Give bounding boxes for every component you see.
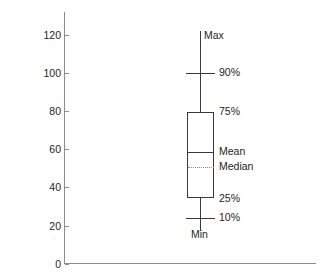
y-tick-label-100-wrap: 100 (0, 68, 61, 78)
p10-cap (186, 218, 215, 219)
x-axis-line (64, 263, 316, 264)
y-tick-0 (65, 264, 69, 265)
p90-cap (186, 73, 215, 74)
annotation-mean: Mean (219, 146, 245, 157)
y-tick-label-40-wrap: 40 (0, 182, 61, 192)
box-plot-figure: Daily Ozone Concentration (ppb) 120 100 … (0, 0, 321, 280)
y-tick-label-0: 0 (3, 259, 61, 269)
mean-line (187, 152, 214, 153)
y-tick-label-40: 40 (3, 182, 61, 192)
y-tick-label-80: 80 (3, 106, 61, 116)
y-tick-label-20-wrap: 20 (0, 221, 61, 231)
annotation-max: Max (204, 30, 224, 41)
y-tick-label-60-wrap: 60 (0, 144, 61, 154)
interquartile-box (187, 112, 214, 198)
median-line (188, 167, 214, 168)
annotation-p75: 75% (219, 106, 240, 117)
annotation-p90: 90% (219, 67, 240, 78)
y-axis-title: Daily Ozone Concentration (ppb) (0, 0, 18, 280)
y-tick-60 (65, 149, 69, 150)
y-tick-label-100: 100 (3, 68, 61, 78)
y-tick-label-60: 60 (3, 144, 61, 154)
y-tick-100 (65, 73, 69, 74)
y-tick-120 (65, 35, 69, 36)
y-tick-label-80-wrap: 80 (0, 106, 61, 116)
y-tick-label-120: 120 (3, 30, 61, 40)
y-tick-label-120-wrap: 120 (0, 30, 61, 40)
annotation-min: Min (191, 229, 208, 240)
y-tick-20 (65, 226, 69, 227)
y-tick-40 (65, 187, 69, 188)
y-tick-label-20: 20 (3, 221, 61, 231)
y-tick-80 (65, 111, 69, 112)
upper-whisker (200, 31, 201, 113)
annotation-p25: 25% (219, 193, 240, 204)
y-tick-label-0-wrap: 0 (0, 259, 61, 269)
annotation-p10: 10% (219, 212, 240, 223)
annotation-median: Median (219, 161, 253, 172)
lower-whisker (200, 197, 201, 231)
